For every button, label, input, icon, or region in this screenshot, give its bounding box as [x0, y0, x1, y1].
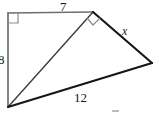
geometry-figure: 7 8 x 12 [0, 0, 159, 116]
side-label-right-unknown: x [122, 25, 127, 37]
right-angle-top-right-icon [87, 18, 100, 25]
scan-artifact-mark [112, 110, 119, 112]
right-angle-top-left-icon [8, 13, 18, 23]
edge-top [8, 12, 93, 13]
side-label-left: 8 [0, 53, 5, 66]
side-label-bottom: 12 [74, 91, 87, 104]
side-label-top: 7 [60, 0, 67, 13]
